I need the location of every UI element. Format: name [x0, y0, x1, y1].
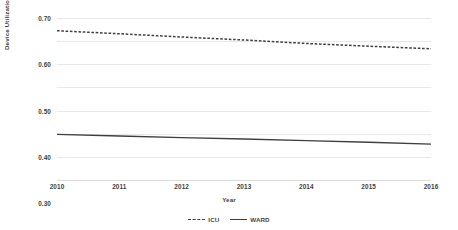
series-line-icu — [57, 31, 431, 49]
y-axis-tick-label: 0.70 — [38, 15, 51, 22]
gridline: 0.00 — [57, 180, 431, 181]
x-axis-tick-label: 2014 — [299, 183, 314, 190]
legend-item-ward[interactable]: WARD — [230, 216, 269, 223]
x-axis-tick-label: 2013 — [237, 183, 252, 190]
series-line-ward — [57, 134, 431, 144]
legend-swatch-solid-icon — [230, 219, 247, 220]
x-axis-tick-label: 2010 — [50, 183, 65, 190]
legend: ICUWARD — [0, 212, 458, 226]
x-axis-tick-label: 2011 — [112, 183, 126, 190]
legend-swatch-dashed-icon — [188, 219, 205, 220]
y-axis-tick-label: 0.60 — [38, 61, 51, 68]
y-axis-title: Device Utilization Ratio — [0, 0, 14, 69]
plot-area: 0.000.100.200.300.400.500.600.70 — [57, 18, 431, 180]
line-chart: Device Utilization Ratio 0.000.100.200.3… — [0, 0, 458, 230]
legend-item-icu[interactable]: ICU — [188, 216, 219, 223]
x-axis-tick-labels: 2010201120122013201420152016 — [57, 183, 431, 195]
x-axis-tick-label: 2015 — [361, 183, 376, 190]
series-layer — [57, 18, 431, 180]
legend-label: WARD — [250, 216, 269, 223]
legend-label: ICU — [208, 216, 219, 223]
x-axis-title: Year — [0, 196, 458, 203]
x-axis-tick-label: 2012 — [174, 183, 189, 190]
y-axis-tick-label: 0.50 — [38, 107, 51, 114]
x-axis-tick-label: 2016 — [424, 183, 439, 190]
y-axis-tick-label: 0.40 — [38, 153, 51, 160]
